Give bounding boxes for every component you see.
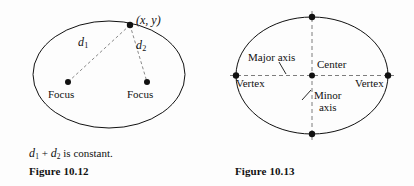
- d1-segment: [68, 25, 130, 82]
- d1-subscript: 1: [84, 41, 88, 50]
- caption-tail-text: is constant.: [63, 147, 113, 159]
- center-label: Center: [317, 59, 346, 71]
- minor-axis-label-line1: Minor: [314, 89, 342, 101]
- ellipse-outline-left: [33, 21, 185, 128]
- center-dot: [309, 73, 315, 79]
- point-on-ellipse-dot: [127, 22, 133, 28]
- figure-10-13-graphic: [230, 11, 394, 140]
- figure-board: (x, y) d1 d2 Focus Focus d1 + d2 is cons…: [0, 0, 414, 186]
- vertex-left-label: Vertex: [236, 78, 265, 90]
- d2-label: d2: [136, 39, 146, 54]
- d1-label: d1: [78, 36, 88, 51]
- minor-axis-label-line2: axis: [314, 101, 342, 113]
- major-axis-leader-line: [279, 62, 286, 74]
- caption-d2: d: [51, 146, 57, 160]
- focus-right-dot: [144, 79, 150, 85]
- covertex-bottom-dot: [309, 131, 315, 137]
- focus-left-label: Focus: [48, 89, 74, 101]
- focus-left-dot: [65, 79, 71, 85]
- major-axis-label: Major axis: [248, 52, 295, 64]
- caption-d1-subscript: 1: [35, 152, 39, 161]
- focus-right-label: Focus: [127, 89, 153, 101]
- figure-10-12-number: Figure 10.12: [29, 166, 89, 178]
- minor-axis-label: Minor axis: [314, 89, 342, 114]
- point-coordinate-label: (x, y): [136, 14, 161, 27]
- figure-10-12-graphic: [33, 21, 185, 128]
- covertex-top-dot: [309, 14, 315, 20]
- figure-10-13-number: Figure 10.13: [235, 166, 295, 178]
- minor-axis-leader-line: [302, 90, 311, 100]
- caption-d2-subscript: 2: [57, 152, 61, 161]
- caption-plus-sign: +: [42, 147, 48, 159]
- d2-subscript: 2: [142, 44, 146, 53]
- vertex-right-label: Vertex: [355, 78, 384, 90]
- vertex-right-dot: [385, 72, 391, 78]
- figure-10-12-caption: d1 + d2 is constant.: [29, 147, 113, 161]
